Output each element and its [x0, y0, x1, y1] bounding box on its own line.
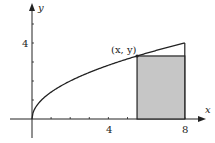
- x-axis-label: x: [205, 104, 211, 115]
- y-tick-label-4: 4: [22, 38, 28, 49]
- x-tick-label-4: 4: [106, 124, 112, 135]
- y-axis-label: y: [37, 2, 44, 13]
- plot-area: x y 4 8 4 (x, y): [0, 0, 215, 143]
- x-tick-label-8: 8: [182, 124, 188, 135]
- y-axis-arrow-icon: [29, 3, 35, 11]
- shaded-rectangle: [137, 56, 185, 119]
- chart: x y 4 8 4 (x, y): [0, 0, 215, 143]
- x-axis-arrow-icon: [198, 116, 206, 122]
- point-annotation: (x, y): [111, 44, 137, 55]
